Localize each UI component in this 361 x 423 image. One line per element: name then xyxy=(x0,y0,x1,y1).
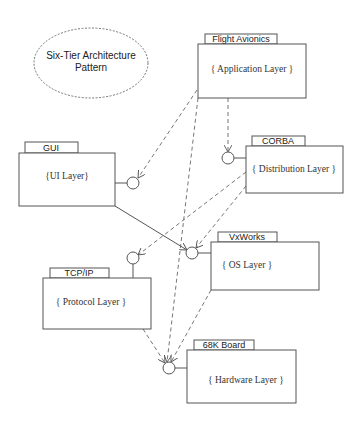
layer-label: { Hardware Layer } xyxy=(208,375,284,385)
package-tab-label: 68K Board xyxy=(203,340,246,350)
package-68k-board[interactable]: 68K Board { Hardware Layer } xyxy=(163,340,296,403)
layer-label: { Distribution Layer } xyxy=(252,164,336,174)
layer-label: { OS Layer } xyxy=(222,260,273,270)
package-flight-avionics[interactable]: Flight Avionics { Application Layer } xyxy=(198,34,306,98)
architecture-diagram: Six-Tier Architecture Pattern Flight Avi… xyxy=(0,0,361,423)
package-tab-label: Flight Avionics xyxy=(212,34,270,44)
layer-label: { Application Layer } xyxy=(211,64,294,74)
package-corba[interactable]: CORBA { Distribution Layer } xyxy=(222,136,343,193)
package-vxworks[interactable]: VxWorks { OS Layer } xyxy=(186,232,319,290)
interface-lollipop-icon xyxy=(186,247,198,259)
interface-lollipop-icon xyxy=(127,177,139,189)
layer-label: { Protocol Layer } xyxy=(56,297,127,307)
package-tab-label: VxWorks xyxy=(229,232,265,242)
note-line-2: Pattern xyxy=(75,62,107,73)
title-note: Six-Tier Architecture Pattern xyxy=(34,28,148,98)
package-tab-label: GUI xyxy=(43,143,59,153)
interface-lollipop-icon xyxy=(222,152,234,164)
interface-lollipop-icon xyxy=(163,362,175,374)
package-gui[interactable]: GUI {UI Layer} xyxy=(19,142,139,206)
interface-lollipop-icon xyxy=(127,252,139,264)
dep-ui-to-os xyxy=(115,206,187,250)
dep-application-to-ui xyxy=(138,90,197,178)
layer-label: {UI Layer} xyxy=(45,171,89,181)
dep-protocol-to-hardware xyxy=(143,329,165,363)
package-tab-label: CORBA xyxy=(262,136,294,146)
package-tcpip[interactable]: TCP/IP { Protocol Layer } xyxy=(43,252,151,329)
package-tab-label: TCP/IP xyxy=(64,268,93,278)
note-line-1: Six-Tier Architecture xyxy=(46,50,136,61)
